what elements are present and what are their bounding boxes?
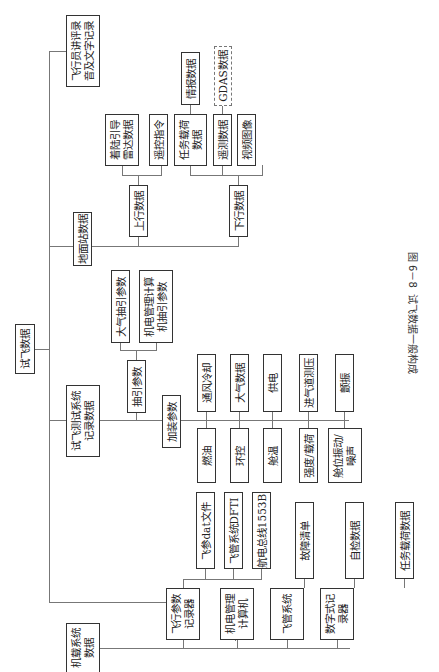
fdr-label: 飞行参数 记录器 (170, 594, 196, 634)
connector (261, 569, 262, 579)
air-bleed-label: 大气抽引参数 (114, 277, 127, 337)
connector (205, 569, 206, 579)
ground-station-box: 地面站数据 (73, 212, 92, 266)
landing-radar-label: 着陆引导 雷达数据 (109, 120, 135, 160)
connector (120, 350, 157, 351)
fcs-dfti-box: 飞管系统DFTI (224, 492, 243, 569)
cabin-vibration-label: 舱位振动/ 噪声 (332, 434, 358, 478)
connector (35, 349, 50, 350)
flutter-box: 颤振 (335, 354, 354, 412)
connector (136, 412, 137, 420)
bleed-params-box: 抽引参数 (127, 360, 146, 413)
added-params-box: 加装参数 (162, 395, 181, 448)
connector (190, 165, 191, 175)
inlet-pressure-label: 进气道测压 (302, 358, 315, 408)
pilot-record-box: 飞行员讲评录 音及文字记录 (66, 15, 100, 87)
avionics-bus-label: 航电总线1553B (255, 493, 268, 567)
digital-recorder-box: 数字式记 录器 (320, 588, 354, 640)
telemetry-label: 遥测数据 (216, 120, 229, 160)
intel-label: 情报数据 (184, 59, 197, 99)
ecs-label: 环控 (233, 446, 246, 466)
strength-load-label: 强度/载荷 (302, 434, 315, 478)
emc-computer-label: 机电管理 计算机 (224, 594, 250, 634)
connector (49, 51, 66, 52)
connector (183, 579, 205, 580)
connector (205, 579, 262, 580)
fdr-box: 飞行参数 记录器 (166, 588, 200, 640)
connector (122, 175, 162, 176)
connector (138, 175, 139, 185)
connector (190, 175, 263, 176)
connector (287, 640, 288, 648)
fcs-box: 飞管系统 (270, 588, 304, 640)
ventilation-label: 通风冷却 (200, 363, 213, 403)
cabin-temp-label: 舱温 (266, 446, 279, 466)
fuel-box: 燃油 (197, 428, 216, 483)
fcs-dfti-label: 飞管系统DFTI (227, 497, 240, 564)
connector (183, 579, 184, 588)
connector (161, 165, 162, 175)
emc-computer-box: 机电管理 计算机 (220, 588, 254, 640)
gdas-label: GDAS数据 (217, 50, 230, 102)
remote-command-label: 遥控指令 (152, 120, 165, 160)
connector (272, 412, 273, 428)
connector (100, 648, 350, 649)
self-test-label: 自检数据 (348, 521, 361, 561)
fcs-label: 飞管系统 (281, 594, 294, 634)
connector (239, 412, 240, 428)
connector (206, 412, 207, 428)
ecs-box: 环控 (230, 428, 249, 483)
landing-radar-box: 着陆引导 雷达数据 (105, 114, 139, 166)
fault-list-label: 故障清单 (298, 521, 311, 561)
root-box: 试飞数据 (15, 324, 35, 374)
video-box: 视频图像 (237, 114, 256, 166)
connector (404, 579, 405, 588)
added-params-label: 加装参数 (165, 402, 178, 442)
bleed-params-label: 抽引参数 (130, 367, 143, 407)
telemetry-box: 遥测数据 (213, 114, 232, 166)
fault-list-box: 故障清单 (295, 502, 314, 579)
strength-load-box: 强度/载荷 (299, 428, 318, 483)
test-system-label: 试飞测试系统 记录数据 (70, 391, 96, 451)
connector (238, 175, 239, 185)
fdr-dat-box: 飞参dat文件 (196, 492, 215, 569)
onboard-label: 机载系统 数据 (70, 628, 96, 668)
connector (237, 640, 238, 648)
connector (337, 640, 338, 648)
connector (262, 165, 263, 175)
video-label: 视频图像 (240, 120, 253, 160)
air-bleed-box: 大气抽引参数 (111, 270, 130, 343)
connector (354, 579, 355, 588)
power-box: 供电 (263, 354, 282, 412)
connector (156, 343, 157, 350)
connector (308, 412, 309, 428)
onboard-box: 机载系统 数据 (66, 623, 100, 672)
power-label: 供电 (266, 373, 279, 393)
pilot-record-label: 飞行员讲评录 音及文字记录 (70, 21, 96, 81)
connector (344, 412, 345, 428)
ventilation-box: 通风冷却 (197, 354, 216, 412)
connector (49, 51, 50, 602)
self-test-box: 自检数据 (345, 502, 364, 579)
air-data-label: 大气数据 (233, 363, 246, 403)
cabin-temp-box: 舱温 (263, 428, 282, 483)
emc-bleed-box: 机电管理计算 机抽引参数 (139, 270, 173, 343)
digital-recorder-label: 数字式记 录器 (324, 594, 350, 634)
task-payload-box: 任务载荷 数据 (174, 114, 207, 166)
emc-bleed-label: 机电管理计算 机抽引参数 (143, 277, 169, 337)
connector (49, 602, 185, 603)
fdr-dat-label: 飞参dat文件 (199, 502, 212, 559)
task-payload-data-box: 任务载荷数据 (395, 502, 414, 579)
connector (235, 640, 236, 641)
uplink-box: 上行数据 (129, 185, 148, 237)
flight-test-data-diagram: 试飞数据 飞行员讲评录 音及文字记录 地面站数据 上行数据 着陆引导 雷达数据 … (0, 0, 439, 672)
inlet-pressure-box: 进气道测压 (299, 354, 318, 412)
task-payload-label: 任务载荷 数据 (178, 120, 204, 160)
test-system-box: 试飞测试系统 记录数据 (66, 385, 100, 457)
avionics-bus-box: 航电总线1553B (252, 492, 271, 569)
connector (120, 343, 121, 350)
remote-command-box: 遥控指令 (149, 114, 168, 166)
downlink-box: 下行数据 (229, 185, 248, 237)
downlink-label: 下行数据 (232, 191, 245, 231)
intel-box: 情报数据 (181, 52, 200, 105)
